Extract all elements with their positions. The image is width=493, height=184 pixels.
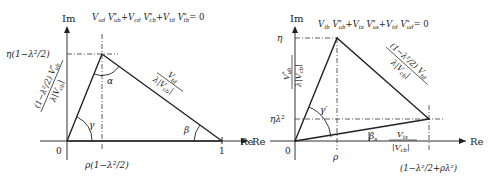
right-left-side-denominator: λ|Vcb| — [294, 64, 304, 88]
right-re-arrow-icon — [459, 138, 466, 144]
right-right-side-fraction: (1−λ²/2) Vtd λ|Vcb| — [378, 40, 434, 94]
right-gamma-prime-label: γ′ — [320, 105, 327, 115]
right-bottom-denominator: |Vcb| — [392, 143, 410, 153]
left-origin-label: 0 — [56, 146, 62, 156]
right-re-left-label: Re — [240, 136, 254, 147]
left-y-tick-label: η(1−λ²/2) — [6, 49, 50, 59]
right-eta-tick-label: η — [277, 33, 283, 43]
right-bottom-numerator: Vts — [397, 130, 408, 140]
left-x-tick-label: ρ(1−λ²/2) — [84, 160, 129, 170]
right-im-arrow-icon — [292, 26, 298, 33]
right-im-label: Im — [290, 13, 304, 24]
left-gamma-label: γ — [89, 120, 95, 130]
left-im-arrow-icon — [64, 26, 70, 33]
right-equation: Vtb V*ub+Vts V*us+Vtd V*ud= 0 — [318, 19, 429, 30]
left-right-side-numerator: Vtd — [165, 70, 181, 85]
right-side-fraction-left: Vtd λ|Vcb| — [150, 65, 189, 102]
left-beta-label: β — [183, 125, 189, 135]
right-x-end-tick-label: (1−λ²/2+ρλ²) — [400, 163, 457, 173]
right-unitarity-triangle: Im Re Re Vtb V*ub+Vts V*us+Vtd V*ud= 0 η… — [240, 13, 484, 173]
left-one-label: 1 — [219, 146, 225, 156]
right-left-side-numerator: V*ub — [281, 67, 292, 80]
left-re-label: Re — [252, 136, 266, 147]
left-alpha-label: α — [107, 76, 113, 86]
right-left-side-fraction: V*ub λ|Vcb| — [281, 55, 304, 89]
left-unitarity-triangle: Im Re Vud V*ub+Vcd V*cb+Vtd V*tb= 0 η(1−… — [6, 12, 266, 170]
left-equation: Vud V*ub+Vcd V*cb+Vtd V*tb= 0 — [92, 12, 205, 23]
right-re-label: Re — [470, 136, 484, 147]
left-beta-arc — [194, 125, 200, 141]
right-rho-tick-label: ρ — [332, 152, 339, 162]
right-origin-label: 0 — [285, 146, 291, 156]
right-eta-lambda-tick-label: ηλ² — [270, 114, 285, 124]
right-beta-s-label: βs — [368, 131, 377, 142]
left-im-label: Im — [62, 13, 76, 24]
unitarity-triangles-figure: Im Re Vud V*ub+Vcd V*cb+Vtd V*tb= 0 η(1−… — [0, 0, 493, 184]
left-side-fraction: (1−λ²/2) V*ub λ|Vcb| — [31, 56, 74, 117]
left-alpha-arc — [94, 66, 119, 76]
